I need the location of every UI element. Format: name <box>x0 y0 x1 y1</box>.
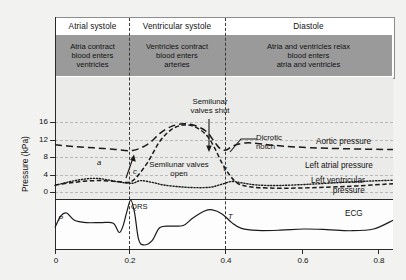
cardiac-cycle-figure: Atrial systole Ventricular systole Diast… <box>0 0 406 280</box>
curve-label-line: pressure <box>311 186 365 196</box>
annotation-dicrotic-notch: Dicrotic notch <box>256 133 316 151</box>
curve-label-line: Left ventricular <box>311 176 365 186</box>
annotation-line: valves shut <box>166 106 254 115</box>
annotation-line: open <box>133 169 225 178</box>
wave-marker-c: c <box>133 167 137 176</box>
curve-label-ecg: ECG <box>345 209 363 219</box>
curve-label-aortic-pressure: Aortic pressure <box>316 137 371 147</box>
ecg-marker-qrs: QRS <box>131 202 147 211</box>
annotation-line: Semilunar valves <box>133 160 225 169</box>
wave-marker-v: v <box>223 164 227 173</box>
ecg-marker-t: T <box>228 212 233 221</box>
annotation-line: Dicrotic <box>256 133 316 142</box>
annotation-semilunar-valves-open: Semilunar valves open <box>133 160 225 178</box>
ecg-marker-p: P <box>58 214 63 223</box>
curve-label-left-ventricular-pressure: Left ventricular pressure <box>311 176 365 195</box>
curve-label-left-atrial-pressure: Left atrial pressure <box>305 161 373 171</box>
annotation-line: Semilunar <box>166 97 254 106</box>
ecg-trace <box>55 200 393 245</box>
annotation-line: notch <box>256 142 316 151</box>
annotation-semilunar-valves-shut: Semilunar valves shut <box>166 97 254 115</box>
wave-marker-a: a <box>97 158 101 167</box>
